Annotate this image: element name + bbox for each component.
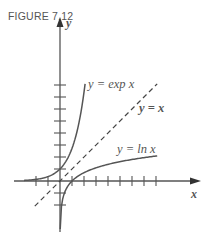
ln-curve-label: y = ln x — [115, 142, 156, 156]
identity-line-label: y = x — [137, 101, 164, 115]
ln-curve — [60, 156, 157, 229]
y-axis-arrow-icon — [57, 17, 64, 27]
y-axis-label: y — [64, 16, 72, 30]
exp-curve — [24, 84, 85, 181]
x-axis-arrow-icon — [190, 178, 201, 185]
exp-curve-label: y = exp x — [86, 77, 135, 91]
chart-plot: y x y = exp x y = x y = ln x — [0, 0, 215, 248]
x-axis-label: x — [190, 187, 197, 201]
